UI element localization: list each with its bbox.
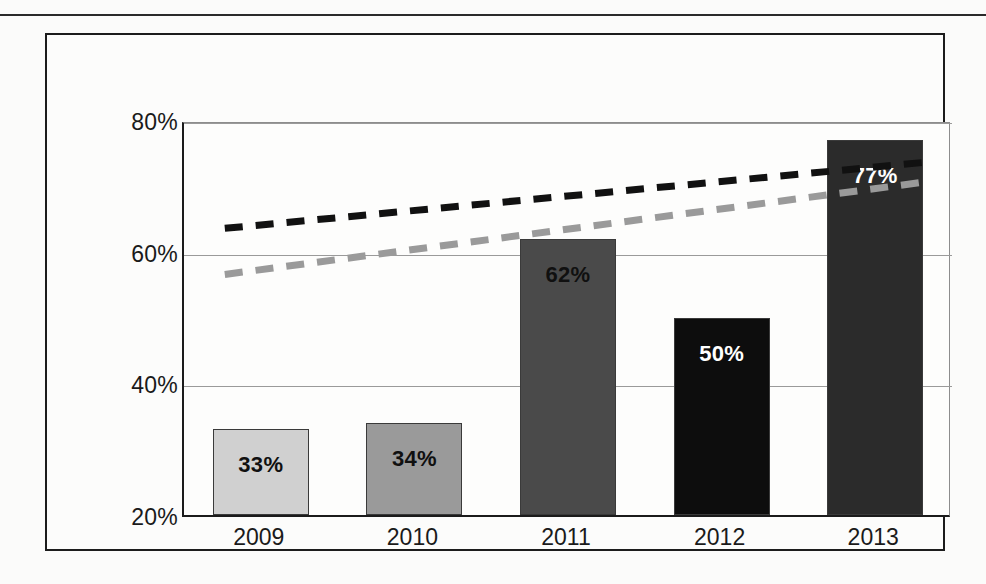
x-axis-tick-label-2010: 2010: [387, 524, 438, 551]
y-axis-tick-label: 80%: [92, 109, 178, 136]
bar-value-label: 77%: [828, 163, 922, 189]
x-axis-tick-label-2009: 2009: [233, 524, 284, 551]
bar-2010[interactable]: 34%: [366, 423, 462, 515]
bar-value-label: 62%: [521, 262, 615, 288]
bar-value-label: 34%: [367, 446, 461, 472]
bar-2013[interactable]: 77%: [827, 140, 923, 515]
y-axis: 20%40%60%80%: [82, 122, 178, 517]
x-axis-tick-label-2011: 2011: [541, 524, 590, 551]
black-dashed-trendline: [225, 163, 923, 229]
x-axis-tick-label-2012: 2012: [694, 524, 745, 551]
y-axis-tick-label: 40%: [92, 372, 178, 399]
x-axis: 20092010201120122013: [182, 524, 950, 558]
page-top-rule: [0, 14, 986, 16]
bar-2012[interactable]: 50%: [674, 318, 770, 516]
y-axis-tick-label: 60%: [92, 240, 178, 267]
page-background: 20%40%60%80% 33%34%62%50%77% 20092010201…: [0, 0, 986, 584]
plot-area: 33%34%62%50%77%: [182, 122, 950, 517]
bar-value-label: 50%: [675, 341, 769, 367]
bar-2009[interactable]: 33%: [213, 429, 309, 515]
y-axis-tick-label: 20%: [92, 504, 178, 531]
x-axis-tick-label-2013: 2013: [848, 524, 899, 551]
bar-2011[interactable]: 62%: [520, 239, 616, 516]
figure-frame: 20%40%60%80% 33%34%62%50%77% 20092010201…: [45, 33, 945, 551]
bar-value-label: 33%: [214, 452, 308, 478]
gridline-80: [184, 123, 952, 124]
